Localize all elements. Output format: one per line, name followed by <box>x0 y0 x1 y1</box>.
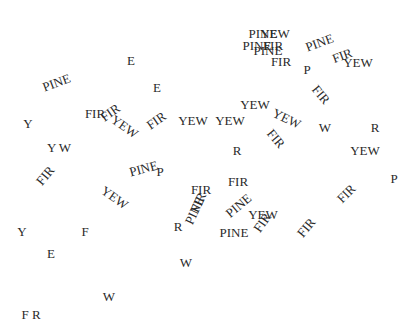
scatter-word: F <box>81 225 88 238</box>
scatter-word: FIR <box>144 109 168 131</box>
scatter-word: FIR <box>334 181 358 205</box>
scatter-word: FIR <box>265 126 288 150</box>
scatter-word: P <box>156 165 163 178</box>
word-scatter-canvas: EPINEEFIRFIRYEWFIRYEWYY WPINEYEWPINEFIRP… <box>0 0 415 329</box>
scatter-word: F R <box>21 308 40 321</box>
scatter-word: FIR <box>34 163 57 187</box>
scatter-word: FIR <box>310 82 333 106</box>
scatter-word: R <box>233 144 242 157</box>
scatter-word: R <box>371 121 380 134</box>
scatter-word: E <box>47 247 55 260</box>
scatter-word: W <box>319 121 331 134</box>
scatter-word: FIR <box>295 215 318 239</box>
scatter-word: P <box>303 63 310 76</box>
scatter-word: Y <box>17 225 26 238</box>
scatter-word: Y W <box>47 141 71 154</box>
scatter-word: YEW <box>99 183 131 211</box>
scatter-word: YEW <box>350 144 380 157</box>
scatter-word: W <box>103 290 115 303</box>
scatter-word: R <box>174 220 183 233</box>
scatter-word: PINE <box>40 71 72 93</box>
scatter-word: YEW <box>109 112 141 140</box>
scatter-word: W <box>180 256 192 269</box>
scatter-word: YEW <box>240 98 270 111</box>
scatter-word: PINE <box>127 158 158 178</box>
scatter-word: PINE <box>220 226 249 239</box>
scatter-word: YEW <box>215 114 245 127</box>
scatter-word: E <box>153 81 161 94</box>
scatter-word: Y <box>23 117 32 130</box>
scatter-word: YEW <box>343 56 373 69</box>
scatter-word: FIR <box>271 55 291 68</box>
scatter-word: P <box>390 172 397 185</box>
scatter-word: E <box>127 54 135 67</box>
scatter-word: FIR <box>228 175 248 188</box>
scatter-word: PINE <box>303 31 335 53</box>
scatter-word: YEW <box>178 114 208 127</box>
